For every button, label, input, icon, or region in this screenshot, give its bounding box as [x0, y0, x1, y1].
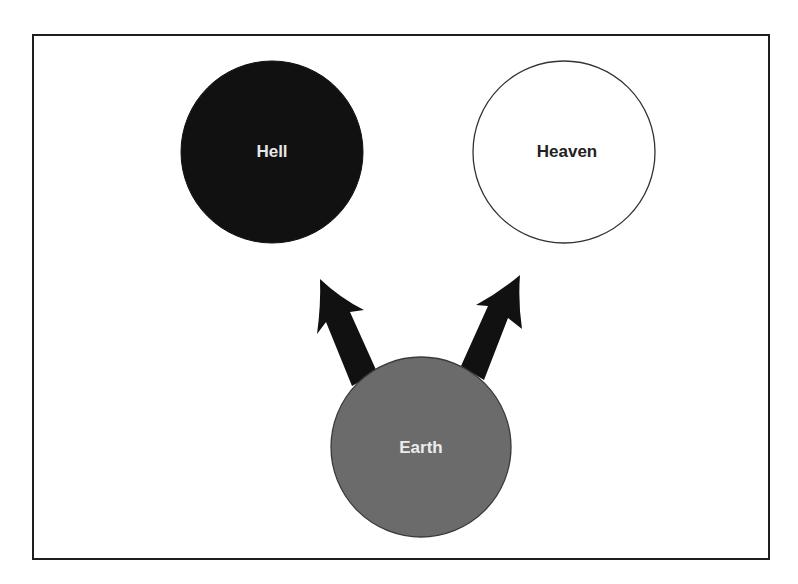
hell-label: Hell — [256, 142, 287, 162]
arrow-earth-to-heaven — [461, 275, 522, 380]
arrow-earth-to-hell — [317, 279, 377, 386]
earth-label: Earth — [399, 438, 442, 458]
heaven-label: Heaven — [537, 142, 597, 162]
diagram-canvas — [0, 0, 798, 584]
